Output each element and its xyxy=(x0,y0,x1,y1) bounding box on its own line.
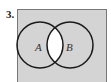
label-a: A xyxy=(34,41,42,53)
label-b: B xyxy=(66,41,73,53)
venn-diagram: A B xyxy=(0,0,111,82)
